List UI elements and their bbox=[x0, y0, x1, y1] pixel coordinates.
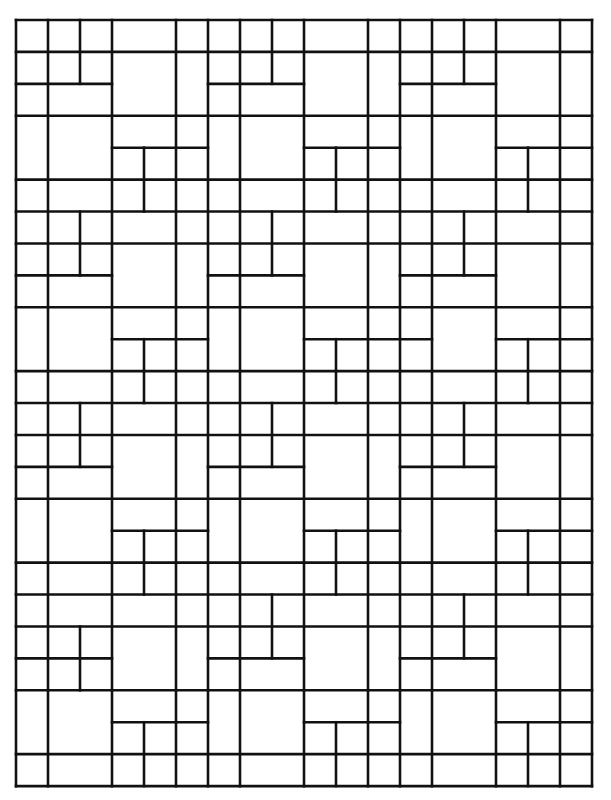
background bbox=[0, 0, 611, 800]
grid-pattern-drawing bbox=[0, 0, 611, 800]
